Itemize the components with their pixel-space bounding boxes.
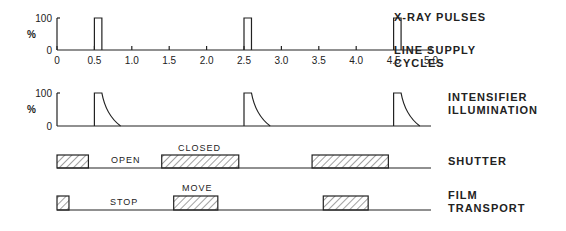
y-axis-label: % (27, 29, 36, 40)
label-intensifier-1: INTENSIFIER (448, 91, 538, 104)
x-tick-label: 2.5 (237, 55, 251, 66)
x-tick-label: 1.0 (125, 55, 139, 66)
x-tick-label: 3.5 (312, 55, 326, 66)
illumination-pulse (244, 93, 270, 126)
state-label-closed: CLOSED (178, 143, 221, 153)
x-tick-label: 2.0 (200, 55, 214, 66)
y-axis-label: % (27, 104, 36, 115)
x-tick-label: 4.0 (349, 55, 363, 66)
state-bar (162, 155, 239, 168)
shutter-plot: OPENCLOSED (57, 143, 431, 168)
label-shutter: SHUTTER (448, 155, 507, 168)
y-tick-label-100: 100 (35, 13, 52, 24)
label-film-2: TRANSPORT (448, 202, 525, 215)
xray-pulse (94, 18, 101, 50)
illumination-pulse (394, 93, 420, 126)
y-tick-label-0: 0 (46, 121, 52, 132)
label-line-supply-2: CYCLES (394, 57, 476, 70)
state-label-open: OPEN (111, 155, 141, 165)
label-film-transport: FILM TRANSPORT (448, 189, 525, 215)
state-label-move: MOVE (182, 183, 213, 193)
state-bar (57, 155, 88, 168)
y-tick-label-100: 100 (35, 88, 52, 99)
x-tick-label: 3.0 (274, 55, 288, 66)
state-label-stop: STOP (110, 197, 138, 207)
label-film-1: FILM (448, 189, 525, 202)
state-bar (57, 196, 69, 210)
label-intensifier: INTENSIFIER ILLUMINATION (448, 91, 538, 117)
x-tick-label: 0.5 (87, 55, 101, 66)
intensifier-plot: 1000% (27, 88, 431, 132)
label-line-supply: LINE SUPPLY CYCLES (394, 44, 476, 70)
illumination-pulse (94, 93, 120, 126)
label-line-supply-1: LINE SUPPLY (394, 44, 476, 57)
label-intensifier-2: ILLUMINATION (448, 104, 538, 117)
x-tick-label: 0 (54, 55, 60, 66)
state-bar (323, 196, 368, 210)
y-tick-label-0: 0 (46, 45, 52, 56)
film-transport-plot: STOPMOVE (57, 183, 431, 210)
x-tick-label: 1.5 (162, 55, 176, 66)
xray-pulses-plot: 1000%00.51.01.52.02.53.03.54.04.55.0 (27, 13, 438, 66)
label-xray-pulses: X-RAY PULSES (394, 11, 486, 24)
xray-pulse (244, 18, 251, 50)
state-bar (174, 196, 218, 210)
state-bar (312, 155, 388, 168)
